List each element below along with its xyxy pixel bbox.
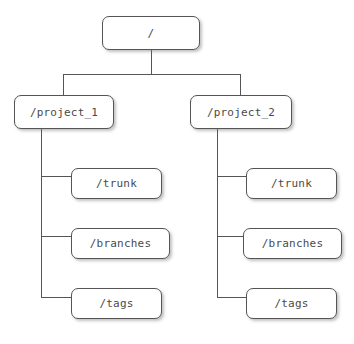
diagram-canvas: / /project_1 /project_2 /trunk /branches… (0, 0, 354, 344)
node-project-2-trunk[interactable]: /trunk (246, 168, 337, 199)
node-project-1[interactable]: /project_1 (14, 95, 114, 129)
node-root[interactable]: / (102, 16, 200, 50)
node-project-2[interactable]: /project_2 (190, 95, 292, 129)
node-project-2-branches-label: /branches (262, 238, 323, 249)
node-project-1-label: /project_1 (30, 107, 98, 118)
node-project-2-label: /project_2 (207, 107, 275, 118)
node-root-label: / (148, 28, 155, 39)
node-project-2-branches[interactable]: /branches (243, 228, 342, 259)
node-project-1-tags[interactable]: /tags (71, 288, 162, 319)
node-project-1-trunk-label: /trunk (96, 178, 137, 189)
node-project-1-branches-label: /branches (90, 238, 151, 249)
node-project-2-trunk-label: /trunk (271, 178, 312, 189)
node-project-1-trunk[interactable]: /trunk (71, 168, 162, 199)
node-project-1-branches[interactable]: /branches (71, 228, 170, 259)
node-project-2-tags[interactable]: /tags (246, 288, 337, 319)
node-project-1-tags-label: /tags (99, 298, 133, 309)
node-project-2-tags-label: /tags (274, 298, 308, 309)
